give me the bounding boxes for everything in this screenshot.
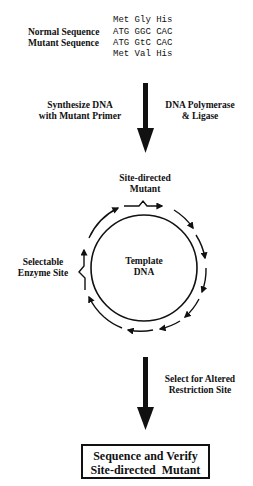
result-box: Sequence and Verify Site-directed Mutant	[81, 444, 210, 479]
down-arrow-1	[137, 83, 154, 153]
down-arrow-2	[137, 357, 154, 430]
diagram-graphics	[0, 0, 253, 486]
template-dna-circle	[91, 215, 197, 321]
new-strand-arcs	[79, 201, 206, 331]
